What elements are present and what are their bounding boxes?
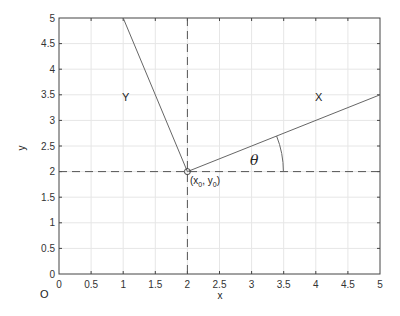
origin-label: O — [40, 288, 49, 300]
grid — [59, 18, 380, 274]
x-axis-label: x — [218, 290, 223, 301]
y-tick-labels: 0 0.5 1 1.5 2 2.5 3 3.5 4 4.5 5 — [41, 13, 55, 280]
svg-text:2.5: 2.5 — [41, 141, 55, 152]
svg-text:2: 2 — [185, 279, 191, 290]
svg-text:0: 0 — [49, 269, 55, 280]
svg-text:5: 5 — [49, 13, 55, 24]
y-annotation: Y — [122, 91, 130, 103]
svg-text:4.5: 4.5 — [341, 279, 355, 290]
x-annotation: X — [315, 91, 323, 103]
x-tick-labels: 0 0.5 1 1.5 2 2.5 3 3.5 4 4.5 5 — [56, 279, 383, 290]
svg-text:1: 1 — [49, 217, 55, 228]
theta-label: θ — [250, 152, 259, 168]
svg-text:2.5: 2.5 — [213, 279, 227, 290]
svg-text:4: 4 — [313, 279, 319, 290]
svg-text:1.5: 1.5 — [41, 192, 55, 203]
theta-arc — [277, 136, 284, 172]
svg-text:3.5: 3.5 — [41, 89, 55, 100]
svg-text:1.5: 1.5 — [148, 279, 162, 290]
svg-text:3.5: 3.5 — [277, 279, 291, 290]
svg-text:4.5: 4.5 — [41, 38, 55, 49]
svg-text:5: 5 — [377, 279, 383, 290]
svg-text:3: 3 — [49, 115, 55, 126]
svg-text:2: 2 — [49, 166, 55, 177]
svg-text:0: 0 — [56, 279, 62, 290]
svg-text:1: 1 — [120, 279, 126, 290]
svg-text:3: 3 — [249, 279, 255, 290]
y-axis-label: y — [16, 146, 27, 151]
svg-text:0.5: 0.5 — [41, 243, 55, 254]
chart-canvas: 0 0.5 1 1.5 2 2.5 3 3.5 4 4.5 5 0 0.5 1 … — [0, 0, 400, 316]
svg-text:4: 4 — [49, 64, 55, 75]
svg-text:0.5: 0.5 — [84, 279, 98, 290]
point-label: (x0, y0) — [190, 175, 220, 188]
